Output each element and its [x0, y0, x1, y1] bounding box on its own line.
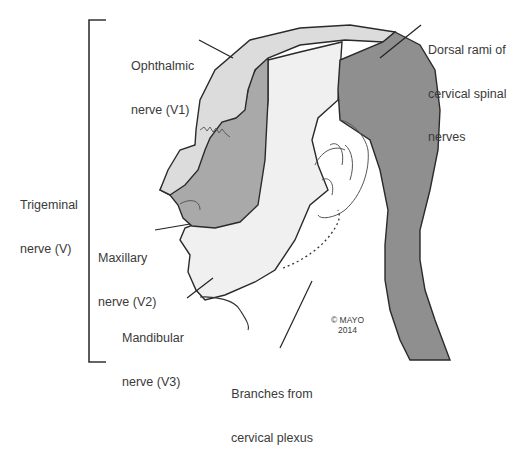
label-line: cervical spinal — [428, 87, 507, 102]
label-dorsal-rami: Dorsal rami of cervical spinal nerves — [428, 14, 507, 159]
label-line: Dorsal rami of — [428, 43, 507, 58]
label-line: Maxillary — [98, 251, 156, 266]
label-ophthalmic: Ophthalmic nerve (V1) — [131, 30, 194, 132]
label-trigeminal: Trigeminal nerve (V) — [20, 169, 78, 271]
label-line: nerves — [428, 130, 507, 145]
label-cervical-plexus: Branches from cervical plexus — [231, 358, 313, 449]
label-line: cervical plexus — [231, 431, 313, 446]
label-line: nerve (V1) — [131, 103, 194, 118]
label-mandibular: Mandibular nerve (V3) — [122, 302, 184, 404]
label-line: nerve (V) — [20, 242, 78, 257]
label-line: Branches from — [231, 387, 313, 402]
leader-ophthalmic — [199, 40, 233, 58]
label-line: Mandibular — [122, 331, 184, 346]
label-line: Ophthalmic — [131, 59, 194, 74]
label-line: nerve (V3) — [122, 375, 184, 390]
copyright-year: 2014 — [331, 325, 364, 335]
copyright-line: © MAYO — [331, 315, 364, 325]
copyright-notice: © MAYO 2014 — [331, 315, 364, 335]
label-line: Trigeminal — [20, 198, 78, 213]
neck-outline — [200, 297, 248, 330]
